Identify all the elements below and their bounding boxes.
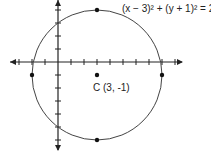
equation-label: (x − 3)² + (y + 1)² = 25: [122, 3, 211, 14]
y-axis-arrow-up: [55, 0, 61, 6]
center-label: C (3, -1): [93, 82, 130, 93]
x-axis-arrow-left: [10, 59, 16, 65]
data-point: [95, 73, 99, 77]
data-point: [95, 138, 99, 142]
x-axis-arrow-right: [177, 59, 183, 65]
data-point: [30, 73, 34, 77]
data-point: [160, 73, 164, 77]
data-point: [95, 8, 99, 12]
chart: (x − 3)² + (y + 1)² = 25 C (3, -1): [0, 0, 211, 152]
y-axis-arrow-down: [55, 145, 61, 151]
marks: [30, 8, 164, 142]
